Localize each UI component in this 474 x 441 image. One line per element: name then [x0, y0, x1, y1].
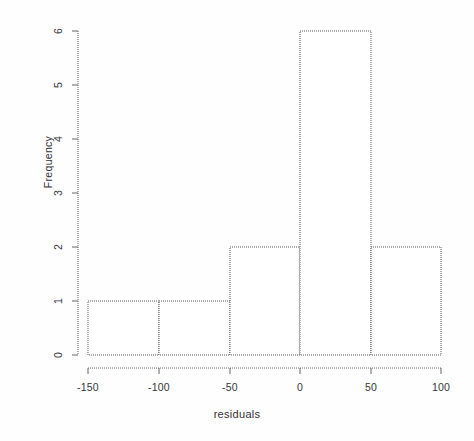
x-axis: [88, 368, 441, 374]
histogram-bar: [230, 247, 300, 355]
y-axis-title: Frequency: [41, 127, 55, 197]
histogram-figure: 0 1 2 3 4 5 6 -150 -100 -50 0 50 100 Fre…: [0, 0, 474, 441]
x-axis-title: residuals: [0, 408, 474, 420]
x-tick-label-50: 50: [351, 381, 391, 394]
histogram-bar: [88, 301, 159, 355]
y-tick-label-2: 2: [52, 239, 64, 255]
histogram-bar: [371, 247, 441, 355]
x-tick-label-0: 0: [280, 381, 320, 394]
y-tick-label-6: 6: [52, 23, 64, 39]
y-axis: [72, 31, 78, 355]
chart-canvas: [0, 0, 474, 441]
x-tick-label-100: 100: [421, 381, 461, 394]
x-tick-label-neg100: -100: [139, 381, 179, 394]
histogram-bars: [88, 31, 441, 355]
x-tick-label-neg150: -150: [68, 381, 108, 394]
y-tick-label-0: 0: [52, 347, 64, 363]
plot-region: 0 1 2 3 4 5 6 -150 -100 -50 0 50 100 Fre…: [0, 0, 474, 441]
x-tick-label-neg50: -50: [210, 381, 250, 394]
y-tick-label-5: 5: [52, 77, 64, 93]
histogram-bar: [300, 31, 371, 355]
histogram-bar: [159, 301, 230, 355]
y-tick-label-1: 1: [52, 293, 64, 309]
